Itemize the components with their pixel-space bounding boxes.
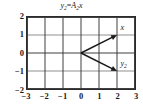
plot-canvas	[27, 17, 135, 89]
y-tick-label-2: 0	[20, 48, 24, 59]
vector-label-y2: y2	[120, 59, 126, 69]
y-tick-label-3: 1	[20, 29, 24, 40]
y-tick-label-0: −2	[15, 85, 24, 96]
figure-title: y2=A2x	[0, 1, 143, 11]
y-axis-tick-labels: −2−1012	[2, 16, 24, 90]
vlabel-y2-subscript: 2	[124, 63, 127, 69]
x-tick-label-6: 3	[128, 91, 143, 101]
x-axis-tick-labels: −3−2−10123	[26, 91, 136, 105]
x-tick-label-2: −1	[55, 91, 71, 101]
x-tick-label-3: 0	[73, 91, 89, 101]
vector-label-x: x	[120, 23, 124, 32]
x-tick-label-5: 2	[110, 91, 126, 101]
vector-transform-figure: y2=A2x −3−2−10123 −2−1012 x y2	[0, 0, 143, 108]
y-tick-label-4: 2	[20, 11, 24, 22]
title-rhs-variable: x	[79, 1, 83, 10]
x-tick-label-4: 1	[91, 91, 107, 101]
vlabel-x-base: x	[120, 23, 124, 32]
y-tick-label-1: −1	[15, 66, 24, 77]
x-tick-label-1: −2	[36, 91, 52, 101]
